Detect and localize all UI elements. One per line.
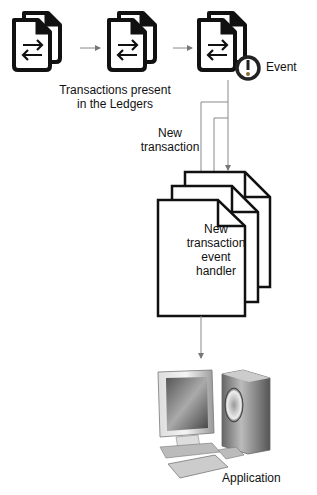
handler-line2: transaction <box>182 236 250 250</box>
event-label: Event <box>266 60 297 74</box>
ledger-document-2 <box>109 13 155 70</box>
handler-line1: New <box>182 222 250 236</box>
handler-line4: handler <box>182 264 250 278</box>
handler-label: New transaction event handler <box>182 222 250 278</box>
handler-line3: event <box>182 250 250 264</box>
ledger-caption-line2: in the Ledgers <box>30 97 200 111</box>
new-transaction-line2: transaction <box>140 140 200 154</box>
ledger-caption-line1: Transactions present <box>30 83 200 97</box>
application-label: Application <box>222 471 281 485</box>
ledger-caption: Transactions present in the Ledgers <box>30 83 200 111</box>
ledger-document-1 <box>14 13 60 70</box>
computer-icon <box>158 370 270 478</box>
new-transaction-line1: New <box>140 126 200 140</box>
new-transaction-label: New transaction <box>140 126 200 154</box>
alert-icon <box>237 57 259 79</box>
